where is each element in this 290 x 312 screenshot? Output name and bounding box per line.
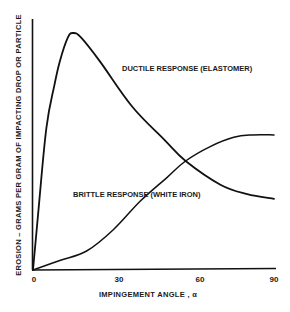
brittle-response-curve [33,135,274,270]
x-tick-60: 60 [196,275,205,284]
brittle-series-label: BRITTLE RESPONSE (WHITE IRON) [73,190,201,199]
y-axis-title: EROSION – GRAMS PER GRAM OF IMPACTING DR… [14,14,23,276]
x-axis-title: IMPINGEMENT ANGLE , α [99,290,197,299]
ductile-series-label: DUCTILE RESPONSE (ELASTOMER) [122,64,253,73]
erosion-vs-angle-chart: DUCTILE RESPONSE (ELASTOMER) BRITTLE RES… [0,0,290,312]
x-tick-30: 30 [115,275,124,284]
x-tick-90: 90 [270,275,279,284]
x-tick-0: 0 [32,275,37,284]
x-axis [32,269,276,271]
